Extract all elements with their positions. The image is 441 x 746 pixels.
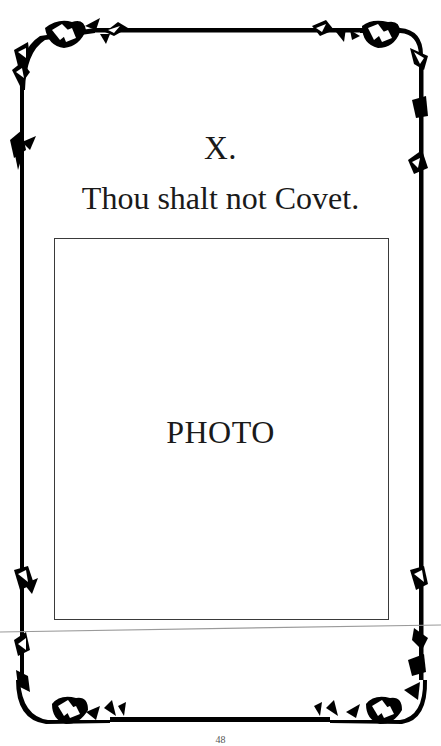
commandment-numeral: X. <box>0 128 441 168</box>
photo-placeholder-label: PHOTO <box>0 412 441 452</box>
commandment-title: Thou shalt not Covet. <box>0 178 441 218</box>
page-number: 48 <box>0 734 441 746</box>
